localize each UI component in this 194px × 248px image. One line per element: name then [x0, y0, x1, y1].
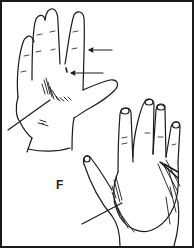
palm-hand-drawing [8, 9, 117, 152]
dorsal-hand-drawing [82, 99, 180, 246]
figure-frame: F [0, 0, 194, 248]
arrow-annotations [71, 48, 112, 75]
hand-illustration [2, 2, 194, 248]
panel-label: F [56, 178, 63, 192]
